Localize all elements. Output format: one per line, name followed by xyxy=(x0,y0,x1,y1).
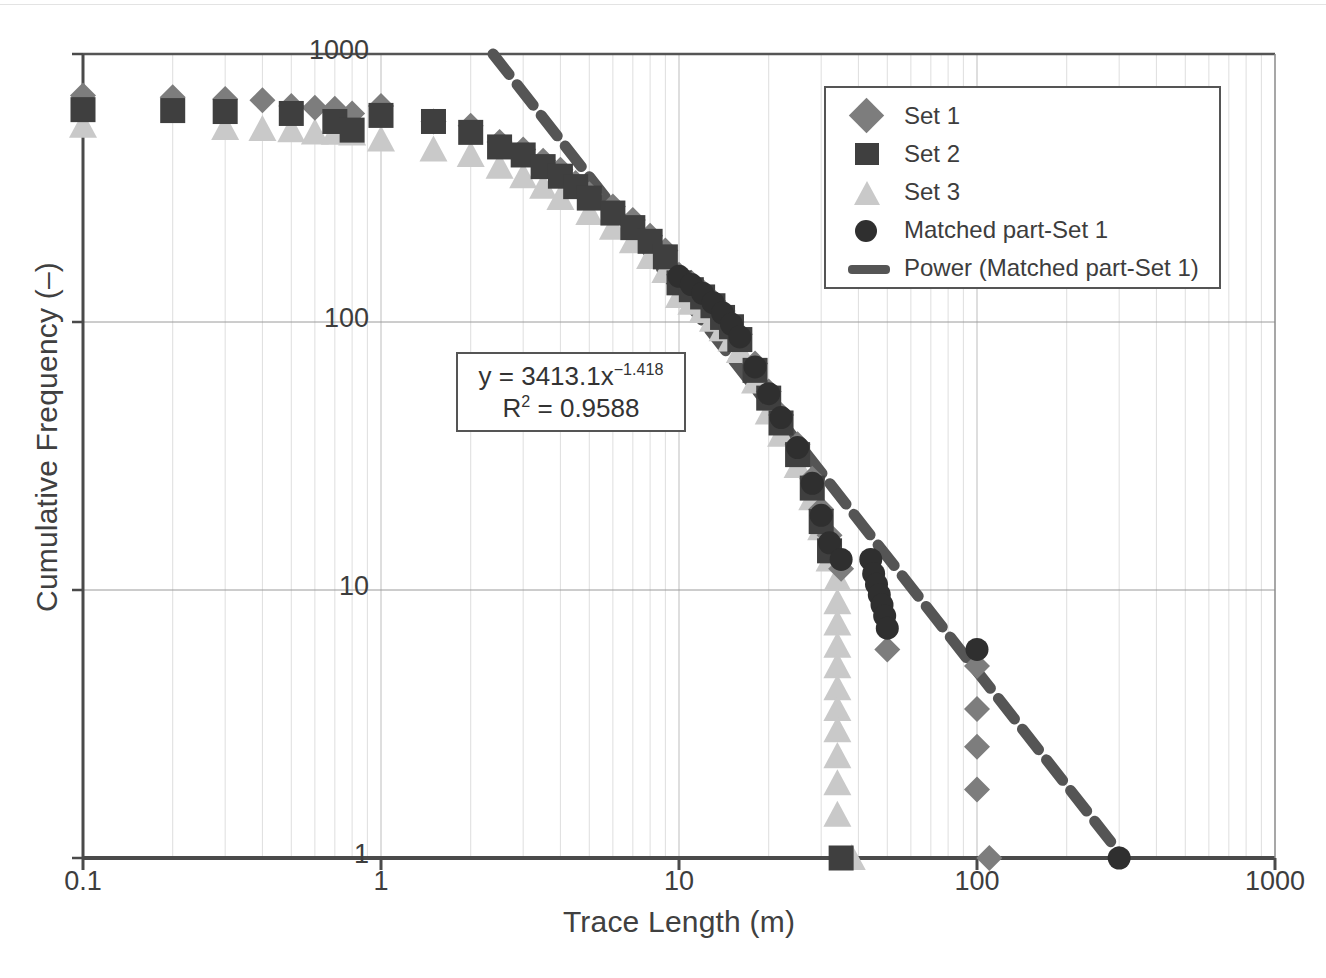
x-tick-label-1: 1 xyxy=(321,866,441,897)
x-tick-label-10: 10 xyxy=(619,866,739,897)
legend-item-set-1[interactable]: Set 1 xyxy=(826,97,1219,135)
r-squared-symbol: R xyxy=(503,393,522,423)
dashed-line-marker-icon xyxy=(842,252,898,284)
x-tick-label-0.1: 0.1 xyxy=(23,866,143,897)
figure-caption-remnant xyxy=(6,952,706,972)
equation-text: y = 3413.1x xyxy=(479,360,614,390)
r-squared-superscript: 2 xyxy=(521,392,530,410)
x-axis-title: Trace Length (m) xyxy=(83,905,1275,939)
r-squared-value: = 0.9588 xyxy=(530,393,639,423)
legend-label: Set 3 xyxy=(904,178,960,206)
equation-line: y = 3413.1x−1.418 xyxy=(479,360,664,392)
triangle-marker-icon xyxy=(842,176,898,208)
legend-label: Set 2 xyxy=(904,140,960,168)
series-set-3 xyxy=(69,112,866,870)
circle-marker-icon xyxy=(842,214,898,246)
x-tick-label-100: 100 xyxy=(917,866,1037,897)
y-axis-title: Cumulative Frequency (–) xyxy=(30,137,64,737)
legend-item-set-2[interactable]: Set 2 xyxy=(826,135,1219,173)
legend-item-power-fit[interactable]: Power (Matched part-Set 1) xyxy=(826,249,1219,287)
legend-label: Power (Matched part-Set 1) xyxy=(904,254,1199,282)
y-tick-label-10: 10 xyxy=(279,571,369,602)
legend-label: Set 1 xyxy=(904,102,960,130)
equation-exponent: −1.418 xyxy=(614,360,664,378)
square-marker-icon xyxy=(842,138,898,170)
x-tick-label-1000: 1000 xyxy=(1215,866,1326,897)
diamond-marker-icon xyxy=(842,100,898,132)
legend-label: Matched part-Set 1 xyxy=(904,216,1108,244)
y-tick-label-1000: 1000 xyxy=(279,35,369,66)
r-squared-line: R2 = 0.9588 xyxy=(503,392,640,424)
series-set-2 xyxy=(71,97,854,870)
y-tick-label-100: 100 xyxy=(279,303,369,334)
regression-annotation-box: y = 3413.1x−1.418 R2 = 0.9588 xyxy=(456,352,686,432)
legend-item-matched-part-set-1[interactable]: Matched part-Set 1 xyxy=(826,211,1219,249)
chart-legend[interactable]: Set 1 Set 2 Set 3 Matched part-Set 1 Pow… xyxy=(824,86,1221,289)
figure-root: 1000 100 10 1 0.1 1 10 100 1000 Cumulati… xyxy=(0,0,1326,978)
legend-item-set-3[interactable]: Set 3 xyxy=(826,173,1219,211)
